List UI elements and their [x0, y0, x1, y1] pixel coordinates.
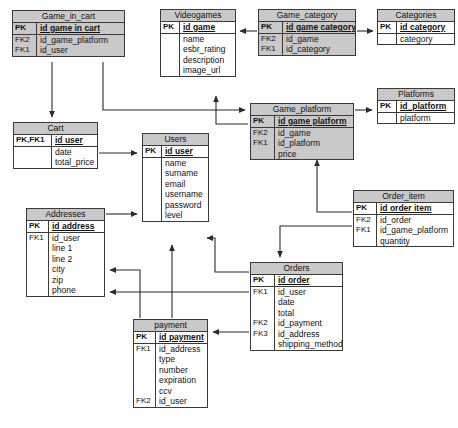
key-label: FK3 — [251, 329, 275, 340]
pk-group: PK,FK1id user — [14, 135, 97, 147]
key-label — [27, 264, 49, 275]
field-name: quantity — [377, 236, 453, 247]
key-label: PK — [251, 116, 275, 127]
key-label — [143, 189, 162, 200]
pk-group: PKid payment — [134, 332, 207, 344]
key-label: FK2 — [251, 318, 275, 329]
entity-title-payment: payment — [134, 320, 207, 332]
field-name: password — [162, 200, 208, 211]
field-name: id_user — [49, 233, 104, 244]
entity-cart[interactable]: CartPK,FK1id user date total_price — [13, 122, 98, 169]
field-name: description — [180, 55, 235, 66]
field-name: id game category — [283, 22, 355, 33]
key-label: FK1 — [251, 287, 275, 298]
field-name: id_order — [377, 215, 453, 226]
key-label: FK1 — [13, 45, 37, 56]
pk-row: PKid order — [251, 275, 342, 286]
field-name: surname — [162, 168, 208, 179]
field-name: number — [156, 365, 207, 376]
attribute-row: surname — [143, 168, 208, 179]
pk-group: PKid_platform — [378, 101, 454, 113]
entity-payment[interactable]: paymentPKid paymentFK1id_address type nu… — [133, 319, 208, 408]
key-label: FK2 — [134, 396, 156, 407]
entity-game_category[interactable]: Game_categoryPKid game categoryFK2id_gam… — [258, 9, 356, 56]
field-name: type — [156, 354, 207, 365]
key-label — [251, 297, 275, 308]
pk-row: PKid user — [143, 146, 208, 157]
entity-videogames[interactable]: VideogamesPKid game name esbr_rating des… — [160, 9, 236, 77]
entity-platforms[interactable]: PlatformsPKid_platform platform — [377, 88, 455, 124]
attribute-row: total — [251, 308, 342, 319]
attribute-row: FK2id_user — [134, 396, 207, 407]
attribute-row: ccv — [134, 386, 207, 397]
rel-game_platform-videogames — [216, 96, 248, 124]
field-name: id_game — [275, 128, 353, 139]
attribute-group: FK1id_address type number expiration ccv… — [134, 344, 207, 407]
key-label: FK2 — [354, 215, 377, 226]
pk-group: PKid order item — [354, 203, 453, 215]
attribute-row: FK2id_payment — [251, 318, 342, 329]
attribute-row: number — [134, 365, 207, 376]
field-name: total_price — [52, 157, 97, 168]
field-name: date — [275, 297, 342, 308]
key-label: PK — [251, 275, 275, 286]
field-name: id_platform — [275, 138, 353, 149]
attribute-row: email — [143, 179, 208, 190]
attribute-row: line 2 — [27, 254, 104, 265]
attribute-row: phone — [27, 285, 104, 296]
field-name: email — [162, 179, 208, 190]
field-name: image_url — [180, 65, 235, 76]
attribute-row: FK1id_user — [251, 287, 342, 298]
entity-categories[interactable]: CategoriesPKid category category — [377, 9, 455, 45]
attribute-group: FK2id_gameFK1id_platform price — [251, 128, 353, 160]
pk-group: PKid user — [143, 146, 208, 158]
entity-game_in_cart[interactable]: Game_in_cartPKid game in cartFK2id_game_… — [12, 10, 125, 57]
pk-row: PKid game platform — [251, 116, 353, 127]
field-name: date — [52, 147, 97, 158]
pk-row: PKid order item — [354, 203, 453, 214]
key-label — [27, 243, 49, 254]
pk-row: PKid_platform — [378, 101, 454, 112]
key-label: PK — [354, 203, 377, 214]
attribute-row: total_price — [14, 157, 97, 168]
key-label: PK — [134, 332, 156, 343]
pk-group: PKid order — [251, 275, 342, 287]
attribute-row: FK2id_game — [259, 34, 355, 45]
entity-orders[interactable]: OrdersPKid orderFK1id_user date totalFK2… — [250, 262, 343, 351]
field-name: level — [162, 210, 208, 221]
attribute-row: level — [143, 210, 208, 221]
key-label: PK — [259, 22, 283, 33]
field-name: id_game_platform — [377, 225, 453, 236]
attribute-row: FK1id_user — [27, 233, 104, 244]
field-name: esbr_rating — [180, 44, 235, 55]
pk-row: PKid game in cart — [13, 23, 124, 34]
attribute-group: FK1id_user date totalFK2id_paymentFK3id_… — [251, 287, 342, 350]
entity-order_item[interactable]: Order_itemPKid order itemFK2id_orderFK1i… — [353, 190, 454, 247]
entity-title-addresses: Addresses — [27, 209, 104, 221]
field-name: line 2 — [49, 254, 104, 265]
attribute-row: description — [161, 55, 235, 66]
key-label — [14, 147, 52, 158]
field-name: id order item — [377, 203, 453, 214]
key-label — [143, 179, 162, 190]
field-name: id_category — [283, 44, 355, 55]
field-name: expiration — [156, 375, 207, 386]
attribute-group: category — [378, 34, 454, 45]
attribute-row: FK2id_game_platform — [13, 35, 124, 46]
entity-title-order_item: Order_item — [354, 191, 453, 203]
attribute-row: FK2id_game — [251, 128, 353, 139]
key-label: PK — [27, 221, 49, 232]
field-name: id_payment — [275, 318, 342, 329]
pk-row: PKid address — [27, 221, 104, 232]
attribute-group: FK2id_gameFK1id_category — [259, 34, 355, 55]
key-label — [378, 34, 397, 45]
entity-game_platform[interactable]: Game_platformPKid game platformFK2id_gam… — [250, 103, 354, 160]
key-label — [161, 65, 180, 76]
field-name: city — [49, 264, 104, 275]
entity-addresses[interactable]: AddressesPKid addressFK1id_user line 1 l… — [26, 208, 105, 297]
entity-users[interactable]: UsersPKid user name surname email userna… — [142, 133, 209, 222]
attribute-group: FK2id_game_platformFK1id_user — [13, 35, 124, 56]
field-name: id_game — [283, 34, 355, 45]
field-name: id_address — [275, 329, 342, 340]
attribute-row: image_url — [161, 65, 235, 76]
